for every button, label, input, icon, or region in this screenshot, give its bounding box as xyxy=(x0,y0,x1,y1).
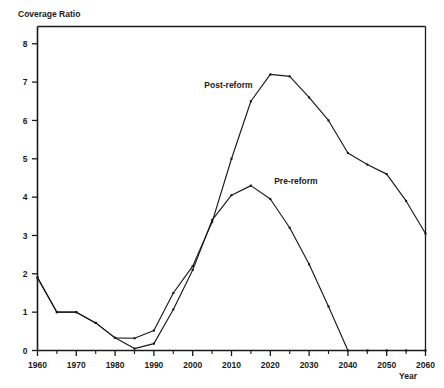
data-point-marker xyxy=(153,343,155,345)
series-lines xyxy=(36,73,426,351)
series-line-pre-reform xyxy=(38,186,426,351)
y-tick-label: 0 xyxy=(23,346,28,356)
data-point-marker xyxy=(424,233,426,235)
axis-ticks xyxy=(32,44,426,356)
data-point-marker xyxy=(114,337,116,339)
y-tick-label: 8 xyxy=(23,39,28,49)
x-tick-label: 1980 xyxy=(106,360,125,370)
data-point-marker xyxy=(75,311,77,313)
x-tick-label: 2060 xyxy=(416,360,435,370)
data-point-marker xyxy=(95,322,97,324)
data-point-marker xyxy=(366,163,368,165)
data-point-marker xyxy=(327,119,329,121)
plot-frame xyxy=(38,27,426,351)
x-tick-label: 2010 xyxy=(222,360,241,370)
data-point-marker xyxy=(230,194,232,196)
data-point-marker xyxy=(405,200,407,202)
data-point-marker xyxy=(289,227,291,229)
data-point-marker xyxy=(289,75,291,77)
y-tick-label: 5 xyxy=(23,154,28,164)
x-tick-label: 2020 xyxy=(261,360,280,370)
data-point-marker xyxy=(172,292,174,294)
data-point-marker xyxy=(366,349,368,351)
data-point-marker xyxy=(133,348,135,350)
y-axis-title: Coverage Ratio xyxy=(18,9,80,19)
y-tick-label: 2 xyxy=(23,269,28,279)
data-point-marker xyxy=(347,152,349,154)
data-point-marker xyxy=(250,185,252,187)
series-annotation-pre-reform: Pre-reform xyxy=(274,176,318,186)
data-point-marker xyxy=(308,263,310,265)
x-tick-label: 1990 xyxy=(144,360,163,370)
x-tick-label: 2030 xyxy=(300,360,319,370)
data-point-marker xyxy=(424,349,426,351)
data-point-marker xyxy=(250,100,252,102)
data-point-marker xyxy=(36,277,38,279)
series-annotations: Post-reformPre-reform xyxy=(204,80,318,186)
data-point-marker xyxy=(230,158,232,160)
y-tick-label: 7 xyxy=(23,77,28,87)
data-point-marker xyxy=(308,96,310,98)
y-tick-label: 6 xyxy=(23,116,28,126)
data-point-marker xyxy=(56,311,58,313)
data-point-marker xyxy=(192,269,194,271)
x-tick-label: 2000 xyxy=(183,360,202,370)
data-point-marker xyxy=(269,73,271,75)
series-line-post-reform xyxy=(38,74,426,338)
data-point-marker xyxy=(386,349,388,351)
x-tick-label: 1970 xyxy=(67,360,86,370)
data-point-marker xyxy=(269,198,271,200)
x-tick-label: 2040 xyxy=(338,360,357,370)
chart-svg: 1960197019801990200020102020203020402050… xyxy=(0,0,444,388)
data-point-marker xyxy=(386,173,388,175)
x-tick-label: 1960 xyxy=(28,360,47,370)
y-tick-label: 1 xyxy=(23,307,28,317)
y-tick-label: 4 xyxy=(23,192,28,202)
y-tick-label: 3 xyxy=(23,231,28,241)
data-point-marker xyxy=(327,305,329,307)
data-point-marker xyxy=(347,349,349,351)
coverage-ratio-chart: 1960197019801990200020102020203020402050… xyxy=(0,0,444,388)
data-point-marker xyxy=(211,219,213,221)
x-axis-title: Year xyxy=(399,371,418,381)
data-point-marker xyxy=(133,337,135,339)
data-point-marker xyxy=(405,349,407,351)
data-point-marker xyxy=(153,330,155,332)
data-point-marker xyxy=(172,308,174,310)
series-annotation-post-reform: Post-reform xyxy=(204,80,253,90)
x-tick-label: 2050 xyxy=(377,360,396,370)
